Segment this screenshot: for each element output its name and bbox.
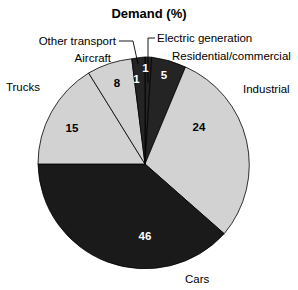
label-industrial: Industrial — [243, 83, 290, 95]
value-residential-commercial: 5 — [161, 69, 168, 81]
value-other-transport: 1 — [133, 73, 140, 85]
label-cars: Cars — [185, 273, 210, 285]
value-industrial: 24 — [193, 121, 206, 133]
value-cars: 46 — [139, 230, 152, 242]
label-trucks: Trucks — [6, 81, 40, 93]
label-other-transport: Other transport — [39, 35, 117, 47]
chart-title: Demand (%) — [111, 6, 186, 21]
label-aircraft: Aircraft — [75, 52, 112, 64]
value-aircraft: 8 — [114, 77, 121, 89]
pie-chart-canvas: Demand (%) Other transpor — [0, 0, 298, 290]
value-trucks: 15 — [66, 122, 79, 134]
value-electric-generation: 1 — [142, 62, 149, 74]
pie-chart-figure: Demand (%) Other transpor — [0, 0, 298, 290]
label-residential-commercial: Residential/commercial — [172, 50, 291, 62]
label-electric-generation: Electric generation — [157, 32, 252, 44]
